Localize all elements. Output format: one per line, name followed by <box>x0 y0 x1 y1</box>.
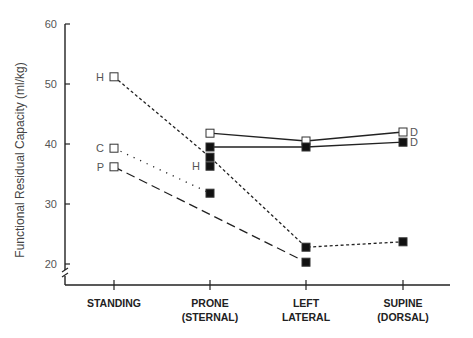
open-square-marker <box>206 129 214 137</box>
x-category-label: PRONE <box>191 297 228 309</box>
series-label: P <box>97 161 104 173</box>
filled-square-marker <box>302 258 310 266</box>
y-axis-label: Functional Residual Capacity (ml/kg) <box>13 62 27 257</box>
open-square-marker <box>110 144 118 152</box>
series-label: C <box>96 142 104 154</box>
filled-square-marker <box>302 243 310 251</box>
series-label: D <box>410 136 418 148</box>
filled-square-marker <box>206 143 214 151</box>
open-square-marker <box>110 163 118 171</box>
open-square-marker <box>399 128 407 136</box>
y-tick-label: 20 <box>45 258 57 270</box>
x-category-label: SUPINE <box>383 297 422 309</box>
labels-layer: HCPDDH <box>96 71 418 173</box>
series-layer <box>110 73 407 266</box>
filled-square-marker <box>399 138 407 146</box>
filled-square-marker <box>399 238 407 246</box>
filled-square-marker <box>302 143 310 151</box>
series-line-p <box>114 167 306 262</box>
x-category-label: LEFT <box>293 297 320 309</box>
series-label: H <box>192 160 200 172</box>
y-tick-label: 60 <box>45 18 57 30</box>
open-square-marker <box>110 73 118 81</box>
y-tick-label: 30 <box>45 198 57 210</box>
filled-square-marker <box>206 162 214 170</box>
y-tick-label: 40 <box>45 138 57 150</box>
x-category-label: LATERAL <box>282 311 331 323</box>
filled-square-marker <box>206 189 214 197</box>
filled-square-marker <box>206 153 214 161</box>
x-category-label: (STERNAL) <box>182 311 239 323</box>
series-line-h <box>114 77 403 247</box>
frc-chart: 2030405060Functional Residual Capacity (… <box>0 0 473 338</box>
series-label: H <box>96 71 104 83</box>
axes: 2030405060Functional Residual Capacity (… <box>13 18 450 323</box>
y-tick-label: 50 <box>45 78 57 90</box>
x-category-label: STANDING <box>87 297 141 309</box>
x-category-label: (DORSAL) <box>377 311 428 323</box>
